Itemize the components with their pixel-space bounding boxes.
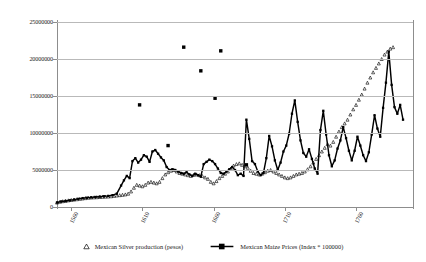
legend-item-silver: Mexican Silver production (pesos) — [83, 243, 184, 250]
maize-data-point — [154, 149, 156, 151]
y-axis-labels: 0500000010000000150000002000000025000000 — [0, 0, 53, 262]
maize-data-point — [368, 151, 370, 153]
maize-data-point — [123, 179, 125, 181]
gridline — [57, 59, 413, 60]
y-axis-right-line — [413, 20, 414, 209]
maize-data-point — [285, 144, 287, 146]
maize-data-point — [393, 106, 395, 108]
silver-data-point — [346, 118, 349, 121]
x-tick-label: 1560 — [68, 211, 79, 224]
maize-data-point — [137, 161, 139, 163]
maize-data-point — [396, 113, 398, 115]
silver-data-point — [241, 163, 244, 166]
x-axis-line — [57, 207, 414, 208]
maize-data-point — [359, 144, 361, 146]
triangle-open-icon — [83, 243, 90, 250]
maize-data-point — [163, 159, 165, 161]
maize-price-line — [57, 52, 403, 203]
silver-data-point — [349, 113, 352, 116]
maize-data-point — [308, 148, 310, 150]
maize-data-point — [251, 160, 253, 162]
maize-data-point — [385, 82, 387, 84]
maize-outlier-point — [138, 103, 141, 106]
maize-data-point — [242, 175, 244, 177]
silver-data-point — [238, 162, 241, 165]
silver-data-point — [374, 66, 377, 69]
maize-data-point — [268, 135, 270, 137]
y-tick-mark — [53, 96, 57, 97]
y-tick-label: 25000000 — [29, 19, 53, 25]
maize-data-point — [362, 154, 364, 156]
silver-data-point — [144, 183, 147, 186]
silver-data-point — [149, 180, 152, 183]
silver-data-point — [352, 108, 355, 111]
gridline — [57, 96, 413, 97]
maize-data-point — [316, 173, 318, 175]
silver-data-point — [332, 140, 335, 143]
x-tick-label: 1660 — [211, 211, 222, 224]
silver-data-point — [366, 81, 369, 84]
silver-data-point — [212, 182, 215, 185]
silver-data-point — [132, 186, 135, 189]
maize-outlier-point — [182, 45, 185, 48]
maize-data-point — [319, 129, 321, 131]
silver-data-point — [309, 165, 312, 168]
maize-data-point — [390, 84, 392, 86]
maize-outlier-point — [166, 144, 169, 147]
maize-data-point — [265, 157, 267, 159]
maize-data-point — [297, 121, 299, 123]
x-tick-mark — [356, 207, 357, 211]
maize-data-point — [356, 136, 358, 138]
silver-data-point — [283, 176, 286, 179]
silver-data-point — [135, 183, 138, 186]
maize-data-point — [382, 107, 384, 109]
silver-data-point — [275, 171, 278, 174]
silver-data-point — [320, 150, 323, 153]
maize-data-point — [294, 99, 296, 101]
maize-data-point — [134, 157, 136, 159]
maize-data-point — [348, 150, 350, 152]
y-tick-mark — [53, 170, 57, 171]
silver-data-point — [246, 166, 249, 169]
maize-data-point — [379, 136, 381, 138]
silver-data-point — [329, 144, 332, 147]
maize-data-point — [203, 163, 205, 165]
maize-data-point — [140, 158, 142, 160]
maize-data-point — [211, 160, 213, 162]
maize-data-point — [208, 158, 210, 160]
maize-data-point — [254, 163, 256, 165]
maize-data-point — [166, 166, 168, 168]
maize-data-point — [291, 113, 293, 115]
maize-data-point — [128, 177, 130, 179]
silver-data-point — [280, 174, 283, 177]
silver-data-point — [161, 177, 164, 180]
maize-outlier-point — [213, 97, 216, 100]
silver-data-point — [255, 172, 258, 175]
maize-data-point — [328, 154, 330, 156]
maize-data-point — [237, 174, 239, 176]
x-tick-label: 1760 — [353, 211, 364, 224]
maize-data-point — [331, 165, 333, 167]
silver-data-point — [206, 177, 209, 180]
x-tick-mark — [214, 207, 215, 211]
maize-data-point — [339, 139, 341, 141]
silver-data-point — [363, 87, 366, 90]
silver-data-point — [392, 46, 395, 49]
silver-data-point — [383, 53, 386, 56]
maize-data-point — [282, 150, 284, 152]
maize-data-point — [334, 159, 336, 161]
x-tick-label: 1610 — [139, 211, 150, 224]
y-tick-label: 10000000 — [29, 130, 53, 136]
gridline — [57, 170, 413, 171]
silver-data-point — [335, 135, 338, 138]
maize-data-point — [311, 158, 313, 160]
silver-data-point — [315, 157, 318, 160]
maize-data-point — [365, 160, 367, 162]
y-tick-mark — [53, 207, 57, 208]
maize-data-point — [302, 152, 304, 154]
maize-data-point — [351, 159, 353, 161]
legend-label-maize: Mexican Maize Prices (Index * 100000) — [240, 243, 343, 250]
silver-data-point — [377, 62, 380, 65]
maize-data-point — [151, 150, 153, 152]
maize-data-point — [279, 161, 281, 163]
